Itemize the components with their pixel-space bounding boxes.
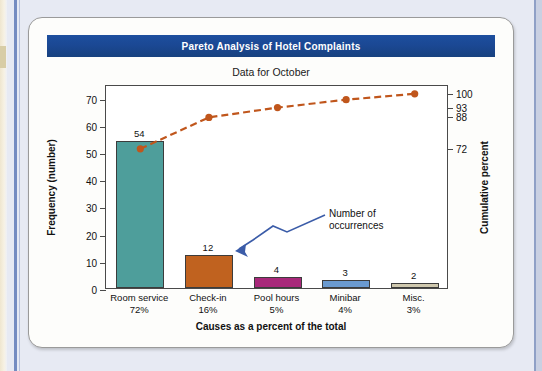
page-right-edge [536,0,542,371]
y-tick-label-right: 100 [456,88,473,99]
y-tick-label-left: 10 [86,257,97,268]
x-category-misc: Misc.3% [379,292,448,315]
page-right-edge-rule [534,0,536,371]
annotation-text: Number of occurrences [329,208,383,232]
x-category-percent: 5% [242,304,311,316]
y-tick-label-left: 70 [86,94,97,105]
annotation-line-2: occurrences [329,220,383,232]
x-category-percent: 4% [311,304,380,316]
cumulative-point[interactable] [137,145,144,152]
x-category-pool-hours: Pool hours5% [242,292,311,315]
y-tick-label-left: 20 [86,230,97,241]
plot-wrapper: Frequency (number) Cumulative percent 01… [29,18,513,347]
page-margin-mark [0,46,6,68]
annotation-line-1: Number of [329,208,383,220]
page-margin-rule-secondary [19,0,20,371]
x-category-name: Misc. [379,292,448,304]
x-category-name: Pool hours [242,292,311,304]
y-tick-label-left: 40 [86,176,97,187]
cumulative-line [140,94,414,149]
bar-value-label: 12 [188,242,228,253]
y-tick-label-left: 0 [91,285,97,296]
y-axis-title-left-text: Frequency (number) [46,139,57,236]
cumulative-point[interactable] [343,96,350,103]
y-tick-label-left: 60 [86,121,97,132]
bar-value-label: 4 [257,264,297,275]
cumulative-line-series [106,86,449,290]
cumulative-point[interactable] [274,104,281,111]
bar-value-label: 3 [325,267,365,278]
y-axis-title-right-text: Cumulative percent [479,141,490,234]
cumulative-point[interactable] [205,114,212,121]
x-axis-title: Causes as a percent of the total [29,321,513,332]
y-tick-label-right: 88 [456,112,467,123]
x-category-percent: 72% [105,304,174,316]
x-category-check-in: Check-in16% [174,292,243,315]
y-tick-left [100,290,106,291]
y-axis-title-left: Frequency (number) [44,85,58,289]
bar-value-label: 2 [394,270,434,281]
y-tick-label-left: 50 [86,149,97,160]
x-category-minibar: Minibar4% [311,292,380,315]
page-margin-rule [14,0,17,371]
x-category-percent: 3% [379,304,448,316]
y-tick-label-right: 72 [456,143,467,154]
x-category-percent: 16% [174,304,243,316]
y-tick-label-right: 93 [456,102,467,113]
x-category-name: Room service [105,292,174,304]
bar-value-label: 54 [119,128,159,139]
chart-card: Pareto Analysis of Hotel Complaints Data… [28,17,514,348]
x-category-name: Check-in [174,292,243,304]
cumulative-point[interactable] [411,90,418,97]
y-tick-label-left: 30 [86,203,97,214]
x-category-room-service: Room service72% [105,292,174,315]
x-category-name: Minibar [311,292,380,304]
y-axis-title-right: Cumulative percent [477,85,491,289]
plot-area: 010203040506070 728893100 [105,85,448,289]
